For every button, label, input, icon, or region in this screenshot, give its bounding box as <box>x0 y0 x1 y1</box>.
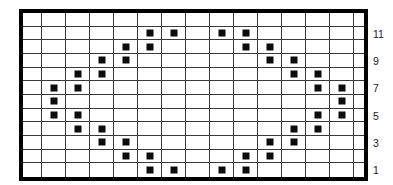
grid-cell <box>306 122 330 136</box>
grid-cell <box>186 68 210 82</box>
grid-cell <box>234 13 258 27</box>
filled-stitch-square <box>122 57 129 64</box>
grid-cell <box>186 163 210 177</box>
filled-stitch-square <box>122 43 129 50</box>
grid-cell <box>354 81 364 95</box>
grid-cell <box>306 136 330 150</box>
grid-cell <box>210 81 234 95</box>
filled-stitch-square <box>314 111 321 118</box>
grid-cell <box>210 40 234 54</box>
grid-cell <box>306 68 330 82</box>
grid-cell <box>354 95 364 109</box>
grid-cell <box>114 109 138 123</box>
grid-cell <box>282 95 306 109</box>
grid-cell <box>186 81 210 95</box>
grid-cell <box>66 40 90 54</box>
grid-cell <box>42 81 66 95</box>
grid-cell <box>138 109 162 123</box>
grid-cell <box>282 81 306 95</box>
filled-stitch-square <box>170 167 177 174</box>
grid-cell <box>42 150 66 164</box>
row-number-label: 5 <box>373 110 391 122</box>
filled-stitch-square <box>170 29 177 36</box>
grid-cell <box>330 122 354 136</box>
filled-stitch-square <box>242 43 249 50</box>
grid-cell <box>90 109 114 123</box>
filled-stitch-square <box>98 139 105 146</box>
grid-cell <box>282 27 306 41</box>
grid-cell <box>306 95 330 109</box>
grid-cell <box>234 136 258 150</box>
grid-cell <box>23 54 42 68</box>
filled-stitch-square <box>146 152 153 159</box>
grid-cell <box>330 40 354 54</box>
filled-stitch-square <box>338 111 345 118</box>
grid-cell <box>23 136 42 150</box>
grid-cell <box>354 13 364 27</box>
grid-cell <box>42 13 66 27</box>
grid-cell <box>330 95 354 109</box>
grid-cell <box>234 122 258 136</box>
grid-cell <box>210 95 234 109</box>
filled-stitch-square <box>98 125 105 132</box>
grid-cell <box>234 27 258 41</box>
grid-cell <box>42 40 66 54</box>
filled-stitch-square <box>74 70 81 77</box>
grid-cell <box>306 109 330 123</box>
grid-cell <box>162 54 186 68</box>
grid-cell <box>90 27 114 41</box>
grid-cell <box>330 81 354 95</box>
grid-cell <box>210 109 234 123</box>
grid-cell <box>138 136 162 150</box>
pattern-chart-screenshot: 1197531 <box>0 0 393 185</box>
grid-cell <box>306 13 330 27</box>
grid-cell <box>138 27 162 41</box>
row-number-label: 9 <box>373 55 391 67</box>
grid-cell <box>162 163 186 177</box>
grid-cell <box>114 150 138 164</box>
grid-cell <box>258 40 282 54</box>
filled-stitch-square <box>338 98 345 105</box>
grid-cell <box>306 81 330 95</box>
grid-cell <box>258 163 282 177</box>
filled-stitch-square <box>122 152 129 159</box>
grid-cell <box>66 95 90 109</box>
grid-cell <box>90 81 114 95</box>
grid-cell <box>42 95 66 109</box>
grid-cell <box>138 13 162 27</box>
grid-cell <box>282 68 306 82</box>
grid-cell <box>114 13 138 27</box>
grid-cell <box>258 54 282 68</box>
grid-cell <box>42 109 66 123</box>
grid-cell <box>282 40 306 54</box>
filled-stitch-square <box>146 29 153 36</box>
grid-cell <box>138 40 162 54</box>
filled-stitch-square <box>266 139 273 146</box>
grid-cell <box>306 150 330 164</box>
grid-cell <box>90 40 114 54</box>
row-number-label: 1 <box>373 164 391 176</box>
grid-cell <box>234 68 258 82</box>
grid-cell <box>90 54 114 68</box>
grid-cell <box>162 95 186 109</box>
grid-cell <box>162 150 186 164</box>
grid-cell <box>234 150 258 164</box>
grid-cell <box>354 40 364 54</box>
grid-cell <box>282 163 306 177</box>
grid-cell <box>210 122 234 136</box>
grid-cell <box>114 40 138 54</box>
grid-cell <box>138 68 162 82</box>
grid-cell <box>90 163 114 177</box>
filled-stitch-square <box>50 98 57 105</box>
grid-cell <box>138 81 162 95</box>
grid-cell <box>330 109 354 123</box>
grid-cell <box>66 109 90 123</box>
grid-cell <box>186 122 210 136</box>
grid-cell <box>138 54 162 68</box>
filled-stitch-square <box>242 167 249 174</box>
grid-cell <box>258 122 282 136</box>
grid-cell <box>23 68 42 82</box>
grid-cell <box>66 13 90 27</box>
grid-cell <box>162 40 186 54</box>
filled-stitch-square <box>266 43 273 50</box>
